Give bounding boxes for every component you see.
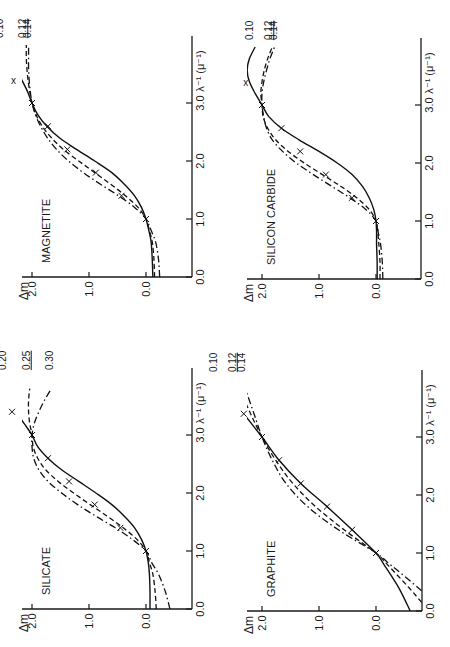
figure-four-panel-extinction-curves: 0.01.02.0Δm0.01.02.03.0λ⁻¹ (μ⁻¹)MAGNETIT… [0,0,450,647]
lambda-axis-label: λ⁻¹ (μ⁻¹) [424,384,436,426]
observation-marker: x [11,75,16,86]
lambda-tick-label: 3.0 [423,97,435,112]
series-0.10 [219,379,410,611]
lambda-axis-label: λ⁻¹ (μ⁻¹) [194,50,206,92]
delta-m-tick-label: 0.0 [140,613,152,628]
lambda-tick-label: 3.0 [194,95,206,110]
lambda-tick-label: 0.0 [194,269,206,284]
legend-label: 0.14 [22,18,33,38]
delta-m-label: Δm [17,614,31,632]
delta-m-tick-label: 0.0 [140,281,152,296]
lambda-tick-label: 3.0 [424,429,436,444]
panel-silicate: 0.01.02.0Δm0.01.02.03.0λ⁻¹ (μ⁻¹)SILICATE… [0,350,206,632]
lambda-tick-label: 2.0 [424,487,436,502]
legend-label: 0.25 [21,350,32,370]
legend-label: 0.14 [268,20,279,40]
panel-title: GRAPHITE [265,541,277,597]
panel-title: SILICON CARBIDE [265,169,277,265]
lambda-tick-label: 2.0 [194,485,206,500]
series-0.12 [236,379,422,602]
panel-silicon-carbide: 0.01.02.0Δm0.01.02.03.0λ⁻¹ (μ⁻¹)SILICON … [242,20,435,302]
lambda-tick-label: 0.0 [194,601,206,616]
delta-m-tick-label: 1.0 [313,615,325,630]
delta-m-tick-label: 2.0 [256,283,268,298]
delta-m-tick-label: 0.0 [370,615,382,630]
lambda-tick-label: 1.0 [424,545,436,560]
series-0.12 [261,47,380,279]
lambda-axis-label: λ⁻¹ (μ⁻¹) [423,52,435,94]
lambda-tick-label: 1.0 [194,543,206,558]
delta-m-tick-label: 1.0 [313,283,325,298]
lambda-axis-label: λ⁻¹ (μ⁻¹) [194,382,206,424]
panel-magnetite: 0.01.02.0Δm0.01.02.03.0λ⁻¹ (μ⁻¹)MAGNETIT… [0,18,206,300]
delta-m-label: Δm [17,282,31,300]
delta-m-tick-label: 2.0 [256,615,268,630]
delta-m-tick-label: 0.0 [370,283,382,298]
lambda-tick-label: 2.0 [194,153,206,168]
series-0.14 [262,47,383,279]
legend-label: 0.30 [44,350,55,370]
delta-m-tick-label: 1.0 [83,281,95,296]
panel-graphite: 0.01.02.0Δm0.01.02.03.0λ⁻¹ (μ⁻¹)GRAPHITE… [208,352,436,634]
delta-m-tick-label: 1.0 [83,613,95,628]
legend-label: 0.10 [208,352,219,372]
lambda-tick-label: 1.0 [194,211,206,226]
legend-label: 0.10 [244,20,255,40]
legend-label: 0.14 [236,352,247,372]
legend-label: 0.20 [0,350,8,370]
lambda-tick-label: 1.0 [423,213,435,228]
panel-title: MAGNETITE [40,199,52,263]
delta-m-label: Δm [242,616,256,634]
legend-label: 0.10 [0,18,5,38]
lambda-tick-label: 3.0 [194,427,206,442]
lambda-tick-label: 0.0 [424,603,436,618]
lambda-tick-label: 2.0 [423,155,435,170]
observation-marker: x [243,77,248,88]
lambda-tick-label: 0.0 [423,271,435,286]
delta-m-label: Δm [242,284,256,302]
panel-title: SILICATE [40,547,52,595]
